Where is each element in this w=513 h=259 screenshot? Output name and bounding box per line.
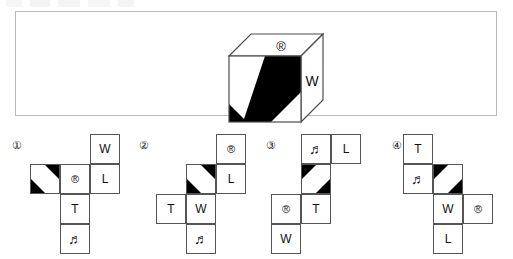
cell-label: ♬: [68, 232, 82, 246]
cell-label: T: [167, 203, 174, 215]
cell-label: W: [99, 143, 110, 155]
cell-label: ♬: [194, 232, 208, 246]
net-cell-stripe: [186, 164, 216, 194]
option-2[interactable]: ② ® L T: [130, 128, 258, 259]
cell-label: T: [71, 203, 78, 215]
net-cell: ®: [463, 194, 493, 224]
net-cell-stripe: [433, 164, 463, 194]
net-cell: ®: [271, 194, 301, 224]
net-cell: ®: [60, 164, 90, 194]
option-4[interactable]: ④ T ♬ W: [383, 128, 511, 259]
net-cell: ♬: [60, 224, 90, 254]
cell-label: ♬: [309, 142, 323, 156]
cell-label: ®: [227, 144, 235, 155]
stripe-graphic: [187, 165, 215, 193]
scan-artifact-strip: [6, 0, 134, 7]
stripe-graphic: [302, 165, 330, 193]
net-cell: L: [433, 224, 463, 254]
net-cell: ®: [216, 134, 246, 164]
option-4-number: ④: [389, 138, 404, 153]
net-cell: ♬: [186, 224, 216, 254]
option-2-number: ②: [136, 138, 151, 153]
stripe-graphic: [434, 165, 462, 193]
cell-label: ♬: [411, 172, 425, 186]
option-1[interactable]: ① W ® L: [3, 128, 131, 259]
cell-label: T: [312, 203, 319, 215]
cell-label: W: [280, 233, 291, 245]
cell-label: W: [195, 203, 206, 215]
page-root: ® W ① W: [0, 0, 513, 259]
net-cell: T: [156, 194, 186, 224]
option-4-net: T ♬ W ®: [403, 134, 493, 254]
net-cell: L: [216, 164, 246, 194]
net-cell-stripe: [301, 164, 331, 194]
cell-label: ®: [282, 204, 290, 215]
option-3-net: ♬ L ® T: [271, 134, 361, 254]
stripe-graphic: [31, 165, 59, 193]
answer-options: ① W ® L: [0, 128, 513, 259]
cell-label: L: [445, 233, 452, 245]
cell-label: L: [228, 173, 235, 185]
cell-label: L: [343, 143, 350, 155]
cube-figure-panel: ® W: [15, 11, 497, 116]
net-cell-stripe: [30, 164, 60, 194]
option-2-net: ® L T W: [156, 134, 246, 254]
cell-label: L: [102, 173, 109, 185]
cell-label: W: [442, 203, 453, 215]
net-cell: ♬: [301, 134, 331, 164]
net-cell: W: [90, 134, 120, 164]
net-cell: L: [331, 134, 361, 164]
net-cell: L: [90, 164, 120, 194]
net-cell: T: [403, 134, 433, 164]
option-3[interactable]: ③ ♬ L ®: [257, 128, 385, 259]
cube-right-face-w-label: W: [305, 73, 319, 89]
cell-label: T: [414, 143, 421, 155]
cell-label: ®: [474, 204, 482, 215]
net-cell: T: [301, 194, 331, 224]
option-1-number: ①: [9, 138, 24, 153]
cell-label: ®: [71, 174, 79, 185]
net-cell: W: [433, 194, 463, 224]
net-cell: ♬: [403, 164, 433, 194]
net-cell: T: [60, 194, 90, 224]
cube-top-face-registered-label: ®: [276, 39, 286, 54]
net-cell: W: [186, 194, 216, 224]
cube-figure: ® W: [221, 28, 341, 126]
option-1-net: W ® L T: [30, 134, 120, 254]
net-cell: W: [271, 224, 301, 254]
